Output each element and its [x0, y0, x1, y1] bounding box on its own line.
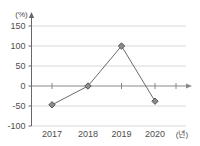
y-tick-label--50: -50	[12, 101, 25, 111]
data-line	[52, 46, 155, 105]
y-tick-label--100: -100	[7, 121, 25, 131]
data-point-marker-2020	[152, 98, 158, 104]
y-axis-arrow-icon	[29, 12, 34, 18]
y-tick-label-150: 150	[10, 21, 25, 31]
y-tick-label-50: 50	[15, 61, 25, 71]
y-tick-label-0: 0	[20, 81, 25, 91]
x-axis-unit-label: (년)	[176, 129, 189, 139]
data-point-marker-2017	[49, 102, 55, 108]
x-axis-arrow-icon	[186, 83, 192, 88]
x-tick-label-2017: 2017	[42, 129, 62, 139]
y-tick-label-100: 100	[10, 41, 25, 51]
x-tick-label-2018: 2018	[78, 129, 98, 139]
y-axis-unit-label: (%)	[15, 10, 28, 19]
x-tick-label-2019: 2019	[111, 129, 131, 139]
line-chart-figure: 150100500-50-100(%)2017201820192020(년)	[0, 0, 200, 146]
chart-canvas: 150100500-50-100(%)2017201820192020(년)	[0, 0, 200, 146]
x-tick-label-2020: 2020	[145, 129, 165, 139]
